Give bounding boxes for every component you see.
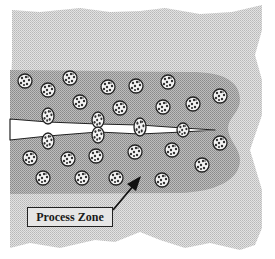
particle [89,149,103,163]
particle [73,95,87,109]
particle [161,75,175,89]
particle [61,152,75,166]
particle [129,79,143,93]
bridging-particle [42,133,54,149]
particle [101,80,115,94]
particle [156,100,170,114]
bridging-particle [92,127,104,143]
particle [63,71,77,85]
process-zone-label-text: Process Zone [36,210,103,225]
particle [213,136,227,150]
bridging-particle [134,118,146,136]
particle [75,171,89,185]
particle [113,101,127,115]
particle [128,145,142,159]
particle [23,151,37,165]
bridging-particle [177,123,189,137]
particle [36,171,50,185]
particle [213,89,227,103]
particle [165,143,179,157]
particle [41,83,55,97]
bridging-particle [92,112,104,128]
particle [195,158,209,172]
particle [186,97,200,111]
process-zone-label: Process Zone [27,207,113,227]
bridging-particle [42,108,54,124]
particle [109,171,123,185]
particle [155,173,169,187]
particle [18,74,32,88]
